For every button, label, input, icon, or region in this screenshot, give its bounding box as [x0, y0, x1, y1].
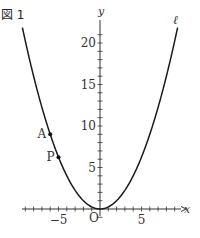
curve-label: ℓ [173, 13, 178, 27]
figure-title: 図 1 [1, 8, 24, 22]
tick-labels: −555101520 [50, 36, 146, 227]
x-tick-label: 5 [138, 213, 146, 227]
points: AP [37, 127, 61, 164]
point-p-label: P [46, 150, 54, 164]
point-a-label: A [37, 127, 47, 141]
figure-canvas: −555101520 AP 図 1 ℓ y x O [0, 0, 200, 238]
y-tick-label: 10 [81, 119, 96, 133]
y-tick-label: 5 [88, 161, 96, 175]
axes [22, 20, 186, 216]
y-tick-label: 20 [81, 36, 96, 50]
x-tick-label: −5 [50, 213, 68, 227]
y-axis-label: y [97, 5, 105, 18]
x-axis-label: x [184, 203, 191, 216]
origin-label: O [89, 211, 99, 225]
point-p-marker [57, 155, 61, 159]
y-tick-label: 15 [81, 78, 96, 92]
point-a-marker [48, 132, 52, 136]
